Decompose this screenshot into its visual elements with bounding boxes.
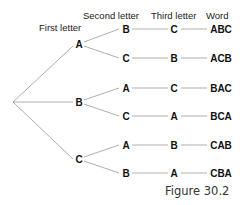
- third-node: B: [170, 53, 177, 64]
- third-node: C: [170, 24, 177, 35]
- word-result: BAC: [210, 83, 232, 94]
- word-result: ACB: [210, 53, 232, 64]
- first-node-a: A: [75, 39, 82, 50]
- third-node: A: [170, 111, 177, 122]
- second-node: A: [122, 83, 129, 94]
- header-third-letter: Third letter: [151, 10, 196, 21]
- first-node-b: B: [75, 97, 82, 108]
- second-node: B: [122, 24, 129, 35]
- second-node: C: [122, 111, 129, 122]
- word-result: CBA: [210, 168, 232, 179]
- second-node: B: [122, 168, 129, 179]
- third-node: C: [170, 83, 177, 94]
- third-node: B: [170, 140, 177, 151]
- first-node-c: C: [75, 154, 82, 165]
- word-result: ABC: [210, 24, 232, 35]
- second-node: A: [122, 140, 129, 151]
- header-word: Word: [206, 10, 229, 21]
- word-result: CAB: [210, 140, 232, 151]
- word-result: BCA: [210, 111, 232, 122]
- second-node: C: [122, 53, 129, 64]
- header-second-letter: Second letter: [83, 10, 139, 21]
- header-first-letter: First letter: [39, 22, 81, 33]
- figure-caption: Figure 30.2: [165, 184, 229, 198]
- third-node: A: [170, 168, 177, 179]
